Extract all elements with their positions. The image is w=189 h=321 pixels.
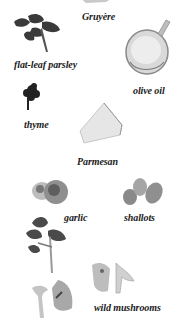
garlic-image [30,177,70,207]
parmesan-label: Parmesan [77,156,118,167]
parsley-image [12,12,62,54]
shallots-image [120,177,164,207]
olive-oil-label: olive oil [133,85,165,96]
herb-sprig-image [22,213,72,273]
gruyere-label: Gruyère [82,11,115,22]
thyme-label: thyme [24,119,49,130]
wild-mushrooms-image-2 [28,278,74,321]
wild-mushrooms-label: wild mushrooms [94,302,161,313]
parsley-label: flat-leaf parsley [14,59,77,70]
parmesan-image [78,101,126,145]
thyme-image [20,82,44,112]
shallots-label: shallots [124,212,155,223]
gruyere-image [76,0,118,6]
wild-mushrooms-image-1 [88,259,136,297]
olive-oil-image [122,16,174,76]
